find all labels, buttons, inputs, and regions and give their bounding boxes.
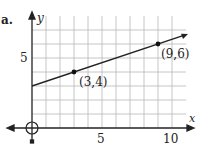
point-9-6 [156,42,161,47]
x-tick-10: 10 [163,133,178,145]
point-label-9-6: (9,6) [161,48,189,60]
grid [32,16,186,128]
y-axis-arrow-up-icon [29,12,35,19]
x-axis-arrow-right-icon [187,125,194,131]
y-tick-5: 5 [20,52,28,64]
point-3-4 [72,70,77,75]
line-arrow-icon [181,34,188,39]
point-label-3-4: (3,4) [79,76,107,88]
y-axis-label: y [37,12,44,24]
y-axis-end-marker-icon [31,140,34,143]
part-label: a. [1,14,13,26]
x-tick-5: 5 [97,133,105,145]
x-axis-arrow-left-icon [7,125,14,131]
x-axis-label: x [189,113,195,124]
